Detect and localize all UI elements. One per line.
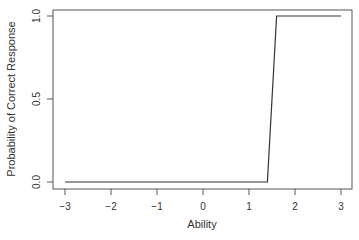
x-tick-label: 0 bbox=[200, 201, 206, 212]
x-tick-label: 1 bbox=[246, 201, 252, 212]
icc-curve-line bbox=[65, 16, 341, 182]
y-tick-label: 1.0 bbox=[31, 9, 42, 23]
x-tick-label: −2 bbox=[105, 201, 117, 212]
x-tick-label: −1 bbox=[151, 201, 163, 212]
x-tick-label: 2 bbox=[292, 201, 298, 212]
y-tick-label: 0.5 bbox=[31, 92, 42, 106]
x-axis: −3−2−10123 bbox=[59, 189, 344, 212]
chart: 0.00.51.0 −3−2−10123 Ability Probability… bbox=[0, 0, 359, 240]
plot-frame bbox=[53, 10, 352, 189]
x-axis-label: Ability bbox=[187, 218, 217, 230]
y-axis-label: Probability of Correct Response bbox=[5, 21, 17, 176]
x-tick-label: −3 bbox=[59, 201, 71, 212]
y-tick-label: 0.0 bbox=[31, 175, 42, 189]
y-axis: 0.00.51.0 bbox=[31, 9, 53, 189]
x-tick-label: 3 bbox=[338, 201, 344, 212]
